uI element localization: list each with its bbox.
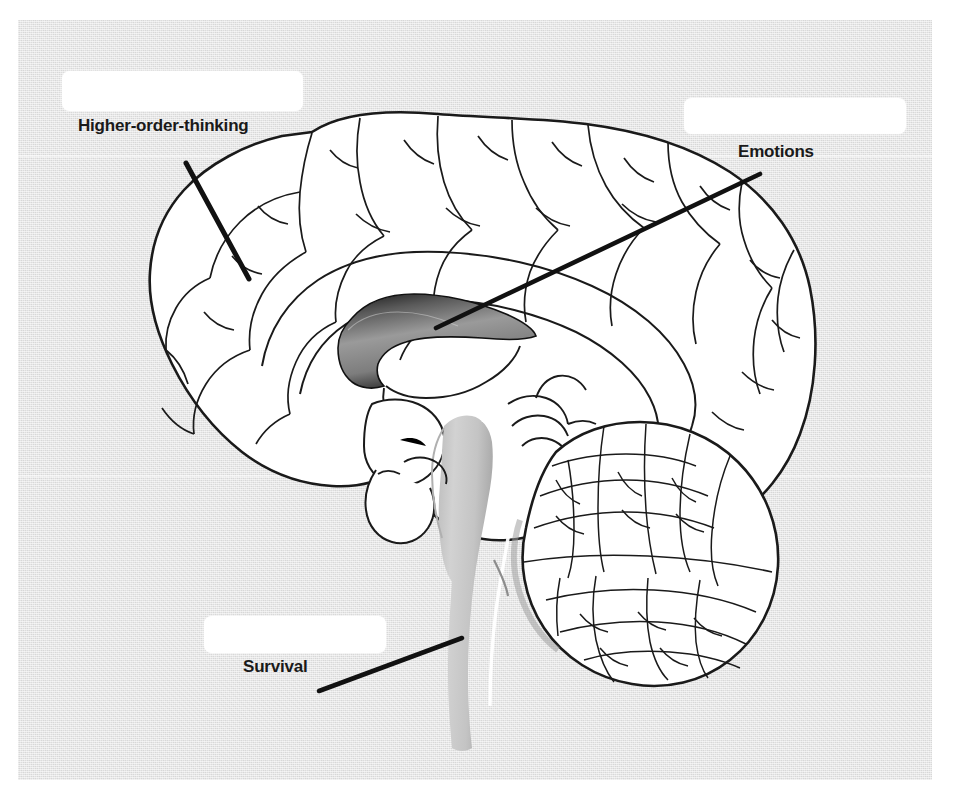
diagram-canvas: Higher-order-thinking Emotions Survival xyxy=(0,0,962,798)
answer-input-survival[interactable] xyxy=(204,616,386,653)
label-survival: Survival xyxy=(243,657,308,677)
answer-input-higher-order-thinking[interactable] xyxy=(62,71,303,111)
label-emotions: Emotions xyxy=(738,142,814,162)
cerebellum xyxy=(514,422,778,686)
answer-input-emotions[interactable] xyxy=(684,98,906,134)
label-higher-order-thinking: Higher-order-thinking xyxy=(78,116,249,136)
